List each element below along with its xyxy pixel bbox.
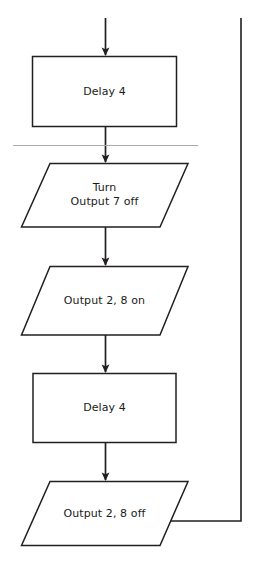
node-delay-4-top xyxy=(33,57,177,127)
flowchart-canvas: Delay 4 Turn Output 7 off Output 2, 8 on… xyxy=(0,0,260,568)
flowchart-graphics xyxy=(0,0,260,568)
node-turn-output-7-off xyxy=(22,164,189,228)
node-output-2-8-off xyxy=(22,482,189,546)
node-delay-4-bottom xyxy=(33,374,176,443)
node-output-2-8-on xyxy=(22,267,189,336)
